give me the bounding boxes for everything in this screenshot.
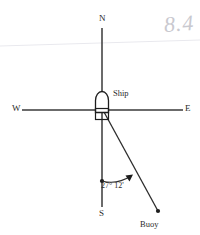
label-bearing-angle: 27° 12' — [101, 182, 124, 190]
label-west: W — [12, 104, 21, 113]
bearing-line-ship-to-buoy — [104, 112, 158, 211]
label-ship: Ship — [113, 89, 129, 98]
label-south: S — [99, 209, 104, 218]
label-north: N — [99, 14, 106, 23]
label-buoy: Buoy — [140, 220, 158, 229]
label-east: E — [185, 104, 191, 113]
scan-artifact-line — [0, 40, 200, 46]
figure-canvas: N S W E Ship Buoy 27° 12' 8.4 — [0, 0, 200, 235]
buoy-point-marker — [156, 209, 160, 213]
handwritten-annotation: 8.4 — [163, 10, 195, 38]
ship-hull-icon — [96, 92, 109, 113]
